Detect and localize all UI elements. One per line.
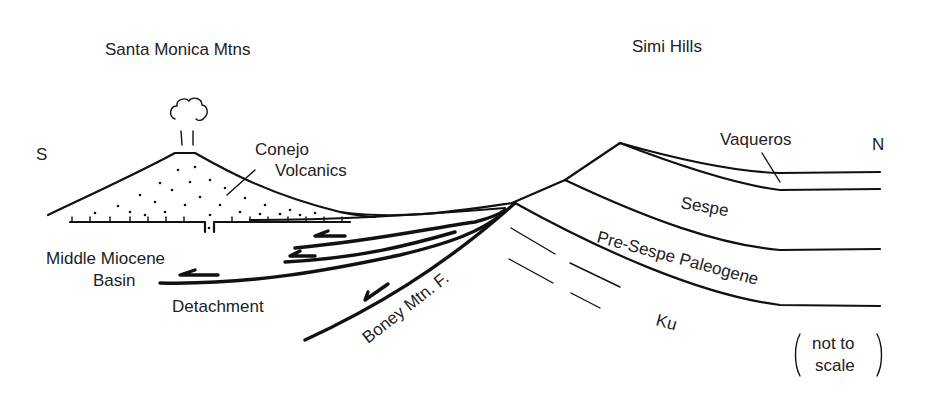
simi-hills-strata	[512, 143, 880, 306]
scale-note: not to scale	[796, 334, 882, 376]
label-not-to: not to	[812, 334, 855, 353]
detachment-faults	[160, 208, 505, 283]
label-santa-monica-mtns: Santa Monica Mtns	[105, 40, 251, 59]
label-vaqueros: Vaqueros	[720, 130, 792, 149]
label-ku: Ku	[654, 311, 679, 335]
label-volcanics: Volcanics	[275, 161, 347, 180]
boney-mtn-fault	[305, 203, 515, 340]
label-sespe: Sespe	[679, 193, 730, 220]
label-detachment: Detachment	[172, 297, 264, 316]
label-south: S	[36, 145, 47, 164]
label-north: N	[872, 135, 884, 154]
label-basin: Basin	[93, 271, 136, 290]
eruption-plume-icon	[171, 98, 208, 145]
vaqueros-leader-line	[762, 153, 780, 182]
label-conejo: Conejo	[255, 140, 309, 159]
label-middle-miocene: Middle Miocene	[46, 249, 165, 268]
cross-section-diagram: Santa Monica Mtns Simi Hills S N	[0, 0, 926, 399]
label-simi-hills: Simi Hills	[632, 37, 702, 56]
label-scale: scale	[815, 356, 855, 375]
label-boney-mtn-fault: Boney Mtn. F.	[359, 268, 453, 347]
